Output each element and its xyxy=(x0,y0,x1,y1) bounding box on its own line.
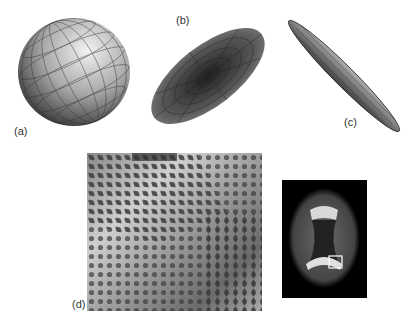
panel-label-a: (a) xyxy=(14,125,27,137)
panel-label-d: (d) xyxy=(72,298,85,310)
panel-b-oblate xyxy=(146,14,271,134)
oblate-glyph xyxy=(146,14,271,134)
sphere-glyph xyxy=(12,14,132,126)
panel-label-b: (b) xyxy=(176,14,189,26)
brain-image xyxy=(282,180,367,298)
tensor-glyph-grid xyxy=(87,153,262,311)
panel-d-glyph-field xyxy=(87,153,262,311)
brain-slice-inset xyxy=(282,180,367,298)
panel-label-c: (c) xyxy=(344,116,357,128)
panel-a-sphere xyxy=(12,14,132,126)
